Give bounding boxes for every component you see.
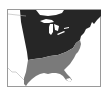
range-map [0,0,109,96]
